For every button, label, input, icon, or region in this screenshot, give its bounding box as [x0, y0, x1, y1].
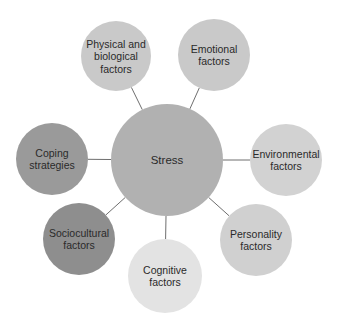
- node-label-coping: Coping: [35, 147, 68, 159]
- connector-emotional: [190, 88, 199, 109]
- connector-personality: [209, 197, 230, 216]
- node-label-environmental: factors: [270, 160, 302, 172]
- node-label-physical: Physical and: [86, 38, 146, 50]
- stress-factors-diagram: Stress Physical andbiologicalfactorsEmot…: [0, 0, 337, 323]
- node-label-environmental: Environmental: [252, 148, 319, 160]
- center-label: Stress: [151, 154, 184, 166]
- node-physical: Physical andbiologicalfactors: [81, 21, 151, 91]
- node-label-cognitive: factors: [149, 276, 181, 288]
- node-label-sociocultural: Sociocultural: [49, 227, 109, 239]
- node-label-emotional: Emotional: [191, 43, 238, 55]
- node-coping: Copingstrategies: [16, 123, 88, 195]
- node-label-personality: Personality: [230, 228, 283, 240]
- node-emotional: Emotionalfactors: [178, 19, 250, 91]
- node-label-sociocultural: factors: [63, 239, 95, 251]
- connector-sociocultural: [106, 197, 126, 215]
- node-personality: Personalityfactors: [220, 204, 292, 276]
- node-label-emotional: factors: [198, 55, 230, 67]
- node-cognitive: Cognitivefactors: [128, 239, 202, 313]
- connector-physical: [131, 87, 142, 109]
- node-label-physical: biological: [94, 50, 138, 62]
- node-environmental: Environmentalfactors: [250, 124, 322, 196]
- node-label-physical: factors: [100, 63, 132, 75]
- center-node-stress: Stress: [111, 104, 223, 216]
- node-label-cognitive: Cognitive: [143, 264, 187, 276]
- node-label-coping: strategies: [29, 159, 75, 171]
- node-label-personality: factors: [240, 240, 272, 252]
- node-sociocultural: Socioculturalfactors: [43, 203, 115, 275]
